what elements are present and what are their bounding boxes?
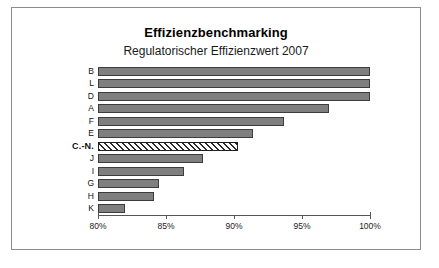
bar-row: I: [98, 167, 370, 176]
bar-row: L: [98, 79, 370, 88]
bar-B: [98, 67, 370, 76]
x-tick-label: 90%: [225, 221, 242, 231]
x-tick: [98, 215, 99, 219]
bar-row: B: [98, 67, 370, 76]
category-label-L: L: [89, 78, 94, 88]
page-caption-strip: [14, 261, 314, 264]
chart-subtitle: Regulatorischer Effizienzwert 2007: [12, 44, 420, 58]
bar-row: D: [98, 92, 370, 101]
category-label-H: H: [88, 191, 94, 201]
plot-area: BLDAFEC.-N.JIGHK: [98, 65, 370, 215]
category-label-B: B: [88, 66, 94, 76]
x-tick-label: 80%: [89, 221, 106, 231]
bar-A: [98, 104, 329, 113]
efficiency-benchmark-chart: Effizienzbenchmarking Regulatorischer Ef…: [12, 8, 420, 249]
category-label-F: F: [89, 116, 94, 126]
category-label-I: I: [92, 166, 94, 176]
x-tick-label: 85%: [157, 221, 174, 231]
chart-title: Effizienzbenchmarking: [12, 25, 420, 40]
bar-L: [98, 79, 370, 88]
bar-G: [98, 179, 159, 188]
category-label-D: D: [88, 91, 94, 101]
bar-row: A: [98, 104, 370, 113]
bar-row: G: [98, 179, 370, 188]
x-tick: [302, 215, 303, 219]
x-tick: [166, 215, 167, 219]
category-label-E: E: [88, 128, 94, 138]
x-tick: [370, 215, 371, 219]
bar-J: [98, 154, 203, 163]
category-label-J: J: [90, 153, 94, 163]
bar-CN: [98, 142, 238, 151]
bar-F: [98, 117, 284, 126]
bar-D: [98, 92, 370, 101]
category-label-CN: C.-N.: [72, 141, 94, 151]
bar-E: [98, 129, 253, 138]
chart-frame: Effizienzbenchmarking Regulatorischer Ef…: [11, 7, 421, 250]
bar-rows: BLDAFEC.-N.JIGHK: [98, 65, 370, 215]
category-label-A: A: [88, 103, 94, 113]
bar-H: [98, 192, 154, 201]
x-tick: [234, 215, 235, 219]
bar-row: E: [98, 129, 370, 138]
category-label-K: K: [88, 203, 94, 213]
bar-row: F: [98, 117, 370, 126]
x-tick-label: 95%: [293, 221, 310, 231]
bar-K: [98, 204, 125, 213]
bar-row: C.-N.: [98, 142, 370, 151]
bar-row: H: [98, 192, 370, 201]
x-tick-label: 100%: [359, 221, 381, 231]
bar-I: [98, 167, 184, 176]
bar-row: J: [98, 154, 370, 163]
bar-row: K: [98, 204, 370, 213]
category-label-G: G: [87, 178, 94, 188]
